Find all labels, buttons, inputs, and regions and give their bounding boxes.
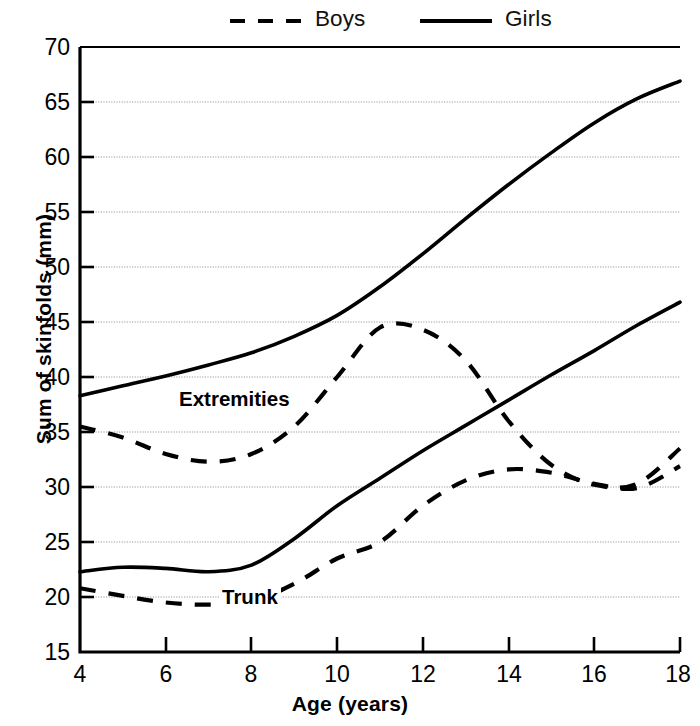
plot-area: Extremities Trunk: [80, 47, 680, 652]
axis-spines: [80, 47, 680, 652]
annotation-extremities: Extremities: [176, 386, 293, 412]
data-series-layer: [80, 81, 680, 605]
y-axis-ticks: [80, 102, 94, 597]
series-line-girls-extremities: [80, 81, 680, 396]
annotation-trunk: Trunk: [219, 584, 281, 610]
gridlines: [80, 102, 680, 597]
series-line-boys-extremities: [80, 323, 680, 487]
series-line-girls-trunk: [80, 302, 680, 572]
x-axis-ticks: [166, 637, 680, 652]
plot-svg: [0, 0, 700, 726]
skinfold-chart-figure: Boys Girls 15 20 25 30 35 40 45 50 55 60…: [0, 0, 700, 726]
